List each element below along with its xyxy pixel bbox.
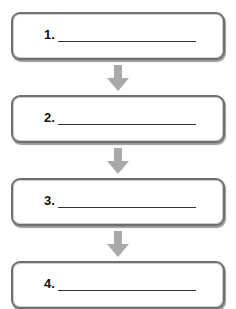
step-box-2: 2. [11, 95, 225, 143]
step-number: 3. [44, 193, 55, 208]
answer-blank[interactable] [58, 41, 196, 42]
step-box-1: 1. [11, 12, 225, 60]
answer-blank[interactable] [58, 290, 196, 291]
step-box-4: 4. [11, 261, 225, 309]
step-number: 2. [44, 110, 55, 125]
down-arrow-icon [107, 231, 129, 257]
down-arrow-icon [107, 148, 129, 174]
step-number: 4. [44, 276, 55, 291]
answer-blank[interactable] [58, 207, 196, 208]
down-arrow-icon [107, 65, 129, 91]
answer-blank[interactable] [58, 124, 196, 125]
step-number: 1. [44, 27, 55, 42]
step-box-3: 3. [11, 178, 225, 226]
